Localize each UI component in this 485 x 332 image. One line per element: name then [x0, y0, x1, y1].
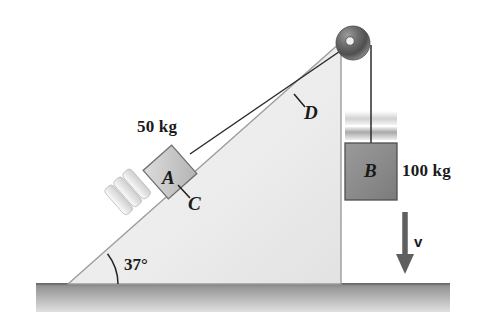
label-point-c: C	[188, 194, 201, 213]
ground	[36, 283, 450, 312]
pulley	[336, 26, 370, 60]
friction-pad-strips	[103, 168, 152, 217]
label-block-b: B	[364, 161, 377, 180]
label-mass-b: 100 kg	[402, 162, 451, 179]
label-velocity: v	[414, 234, 422, 249]
label-incline-angle: 37°	[124, 256, 148, 273]
velocity-arrow	[396, 212, 414, 274]
label-mass-a: 50 kg	[137, 118, 177, 135]
physics-diagram-incline-pulley: 50 kg 100 kg A B C D 37° v	[0, 0, 485, 332]
label-point-d: D	[304, 103, 318, 122]
label-block-a: A	[162, 168, 175, 187]
